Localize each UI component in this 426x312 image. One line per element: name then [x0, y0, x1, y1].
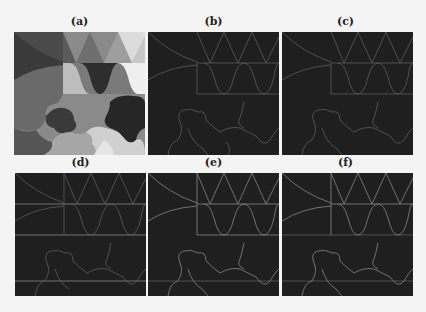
panel-f-label: (f)	[280, 156, 411, 169]
edge-map-d	[15, 173, 146, 296]
panel-d-label: (d)	[15, 156, 146, 169]
panel-b-label: (b)	[148, 15, 279, 28]
segmentation-image	[14, 32, 145, 155]
edge-map-b	[148, 32, 279, 155]
panel-e-edges	[148, 173, 279, 296]
edge-map-f	[282, 173, 413, 296]
edge-map-e	[148, 173, 279, 296]
panel-d-edges	[15, 173, 146, 296]
panel-c-label: (c)	[280, 15, 411, 28]
panel-f-edges	[282, 173, 413, 296]
panel-e-label: (e)	[148, 156, 279, 169]
panel-b-edges	[148, 32, 279, 155]
panel-c-edges	[282, 32, 413, 155]
panel-a-label: (a)	[14, 15, 145, 28]
panel-a-segmentation	[14, 32, 145, 155]
edge-map-c	[282, 32, 413, 155]
